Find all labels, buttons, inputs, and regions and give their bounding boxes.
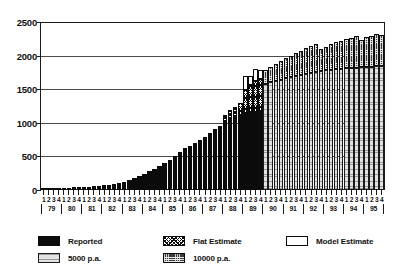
bar-segment-pa_5000 <box>334 69 338 190</box>
bar-segment-pa_5000 <box>279 80 283 190</box>
bars-layer <box>40 22 385 190</box>
legend-label-10000-pa: 10000 p.a. <box>193 254 230 263</box>
bar-segment-reported <box>193 143 197 190</box>
bar-segment-pa_10000 <box>289 56 293 78</box>
bar-segment-reported <box>173 156 177 190</box>
bar-segment-pa_10000 <box>299 51 303 75</box>
legend-label-model-estimate: Model Estimate <box>316 237 373 246</box>
bar-segment-pa_5000 <box>268 82 272 190</box>
bar-segment-pa_5000 <box>289 77 293 190</box>
bar-segment-pa_5000 <box>324 70 328 190</box>
bar-segment-pa_10000 <box>374 34 378 66</box>
x-axis-year-label: 94 <box>343 204 363 214</box>
bar-segment-pa_5000 <box>354 68 358 190</box>
bar-segment-reported <box>117 183 121 190</box>
bar-segment-flat_estimate <box>248 85 252 112</box>
bar-segment-model_estimate <box>243 76 247 89</box>
legend-row-1: Reported Flat Estimate Model Estimate <box>38 236 378 246</box>
bar-segment-pa_5000 <box>369 67 373 190</box>
bar-segment-flat_estimate <box>228 110 232 119</box>
bar-segment-reported <box>248 112 252 190</box>
bar-segment-reported <box>162 163 166 190</box>
x-axis-year-label: 80 <box>61 204 81 214</box>
legend-item-model-estimate: Model Estimate <box>286 236 373 246</box>
bar-segment-pa_10000 <box>294 53 298 76</box>
legend-swatch-reported <box>38 236 60 246</box>
legend-swatch-model-estimate <box>286 236 308 246</box>
bar-segment-reported <box>122 182 126 190</box>
y-axis-tick-label: 1000 <box>17 117 37 128</box>
bar-segment-pa_10000 <box>369 36 373 67</box>
bar-segment-pa_10000 <box>329 44 333 70</box>
bar-segment-reported <box>188 146 192 190</box>
bar-segment-reported <box>223 122 227 190</box>
x-axis-year-label: 82 <box>101 204 121 214</box>
bar-segment-pa_10000 <box>304 48 308 74</box>
x-axis-year-label: 95 <box>363 204 384 214</box>
x-axis-year-label: 91 <box>283 204 303 214</box>
bar-segment-pa_10000 <box>274 64 278 81</box>
bar-segment-pa_5000 <box>364 67 368 190</box>
legend-swatch-flat-estimate <box>163 236 185 246</box>
bar-segment-pa_5000 <box>374 66 378 190</box>
legend-label-reported: Reported <box>68 237 102 246</box>
bar-segment-reported <box>258 111 262 190</box>
bar-segment-reported <box>168 160 172 190</box>
y-axis: 05001000150020002500 <box>0 22 37 190</box>
x-axis-year-label: 92 <box>303 204 323 214</box>
bar-segment-pa_10000 <box>314 44 318 72</box>
bar-segment-pa_10000 <box>263 70 267 83</box>
bar-segment-reported <box>218 126 222 191</box>
bar-segment-reported <box>238 115 242 190</box>
bar-segment-pa_10000 <box>324 47 328 71</box>
bar-segment-model_estimate <box>258 70 262 79</box>
x-axis-quarter-label: 4 <box>379 195 384 204</box>
bar-segment-reported <box>253 112 257 190</box>
legend-item-flat-estimate: Flat Estimate <box>163 236 286 246</box>
bar-segment-reported <box>147 171 151 190</box>
y-axis-tick-label: 2000 <box>17 50 37 61</box>
bar-segment-reported <box>132 178 136 190</box>
legend-label-flat-estimate: Flat Estimate <box>193 237 242 246</box>
bar-segment-pa_5000 <box>329 70 333 190</box>
x-axis-year-labels: 7980818283848586878889909192939495 <box>40 204 385 214</box>
bar-segment-reported <box>183 148 187 190</box>
bar-segment-pa_10000 <box>339 41 343 69</box>
legend-item-reported: Reported <box>38 236 163 246</box>
bar-segment-pa_10000 <box>279 61 283 80</box>
bar-segment-pa_10000 <box>284 58 288 78</box>
x-axis-year-label: 93 <box>323 204 343 214</box>
x-axis-year-label: 81 <box>81 204 101 214</box>
bar-segment-reported <box>208 133 212 190</box>
bar-segment-pa_5000 <box>359 67 363 190</box>
bar-segment-flat_estimate <box>223 115 227 122</box>
bar-segment-reported <box>127 180 131 190</box>
bar-segment-reported <box>233 117 237 190</box>
bar-segment-reported <box>243 113 247 190</box>
x-axis-year-label: 89 <box>242 204 262 214</box>
legend-item-10000-pa: 10000 p.a. <box>163 253 286 263</box>
bar-segment-pa_10000 <box>268 67 272 82</box>
bar-segment-pa_10000 <box>344 39 348 68</box>
legend-item-5000-pa: 5000 p.a. <box>38 253 163 263</box>
bar-segment-reported <box>178 152 182 190</box>
legend-row-2: 5000 p.a. 10000 p.a. <box>38 253 378 263</box>
bar-segment-pa_10000 <box>354 36 358 67</box>
x-axis: 1234123412341234123412341234123412341234… <box>40 190 385 214</box>
x-axis-year-label: 88 <box>222 204 242 214</box>
bar-segment-pa_5000 <box>284 78 288 190</box>
x-axis-year-label: 83 <box>122 204 142 214</box>
legend-swatch-10000-pa <box>163 253 185 263</box>
bar-segment-pa_10000 <box>309 46 313 73</box>
y-axis-tick-label: 1500 <box>17 84 37 95</box>
bar-segment-pa_5000 <box>344 68 348 190</box>
bar-segment-pa_5000 <box>319 71 323 190</box>
y-axis-tick-label: 500 <box>22 151 37 162</box>
bar-segment-pa_5000 <box>339 69 343 190</box>
legend-swatch-5000-pa <box>38 253 60 263</box>
legend: Reported Flat Estimate Model Estimate 50… <box>38 236 378 270</box>
bar-segment-pa_5000 <box>309 73 313 190</box>
bar-column <box>379 22 384 190</box>
y-axis-tick-label: 2500 <box>17 17 37 28</box>
bar-segment-flat_estimate <box>238 103 242 115</box>
